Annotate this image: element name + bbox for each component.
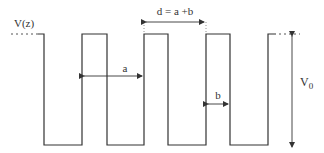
y-axis-label: V(z) bbox=[14, 17, 34, 30]
period-label: d = a +b bbox=[157, 5, 194, 17]
potential-profile bbox=[38, 34, 276, 145]
kronig-penney-diagram: d = a +b a b V0 V(z) bbox=[0, 0, 324, 153]
barrier-width-label: b bbox=[215, 89, 221, 101]
well-width-label: a bbox=[123, 62, 128, 74]
barrier-height-label: V0 bbox=[300, 75, 314, 91]
